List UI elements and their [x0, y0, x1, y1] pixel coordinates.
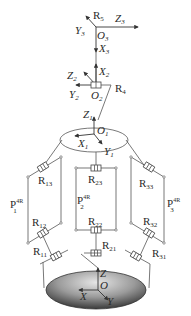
label-r33: R33: [139, 177, 154, 191]
label-y3: Y3: [75, 24, 85, 38]
frame-o3: [86, 16, 138, 85]
label-o3: O3: [97, 29, 109, 43]
label-z2: Z2: [67, 69, 77, 83]
label-x3: X3: [98, 42, 110, 56]
limb-1: [27, 140, 68, 288]
label-z1: Z1: [83, 108, 93, 122]
limb-3: [125, 140, 165, 288]
label-z: Z: [100, 267, 107, 279]
label-o1: O1: [97, 124, 108, 138]
label-p2: P4R2: [77, 194, 90, 211]
label-o2: O2: [91, 89, 103, 103]
label-o: O: [100, 279, 108, 291]
label-x2: X2: [98, 65, 110, 79]
label-z3: Z3: [115, 12, 125, 26]
robot-kinematic-diagram: R5 Z3 Y3 O3 X3 X2 Z2 R4 Y2 O2 Z1 O1 X1 Y…: [0, 0, 191, 316]
label-r11: R11: [33, 245, 48, 259]
label-r31: R31: [152, 247, 167, 261]
r13-joint-icon: [37, 162, 49, 172]
r31-joint-icon: [130, 251, 142, 261]
r33-joint-icon: [143, 162, 155, 172]
label-r4: R4: [115, 82, 126, 96]
label-r12: R12: [32, 216, 47, 230]
label-r23: R23: [88, 173, 103, 187]
label-r21: R21: [102, 239, 117, 253]
label-r5: R5: [93, 9, 104, 23]
label-y2: Y2: [69, 88, 79, 102]
r11-joint-icon: [50, 251, 62, 261]
label-p1: P4R1: [10, 198, 23, 215]
label-r22: R22: [88, 215, 103, 229]
label-x: X: [79, 290, 88, 302]
r23-joint-icon: [91, 165, 101, 171]
base-platform: [46, 268, 146, 309]
label-r32: R32: [143, 215, 158, 229]
labels: R5 Z3 Y3 O3 X3 X2 Z2 R4 Y2 O2 Z1 O1 X1 Y…: [10, 9, 180, 307]
label-r13: R13: [38, 174, 53, 188]
moving-platform: [60, 117, 128, 152]
label-p3: P4R3: [167, 197, 180, 214]
